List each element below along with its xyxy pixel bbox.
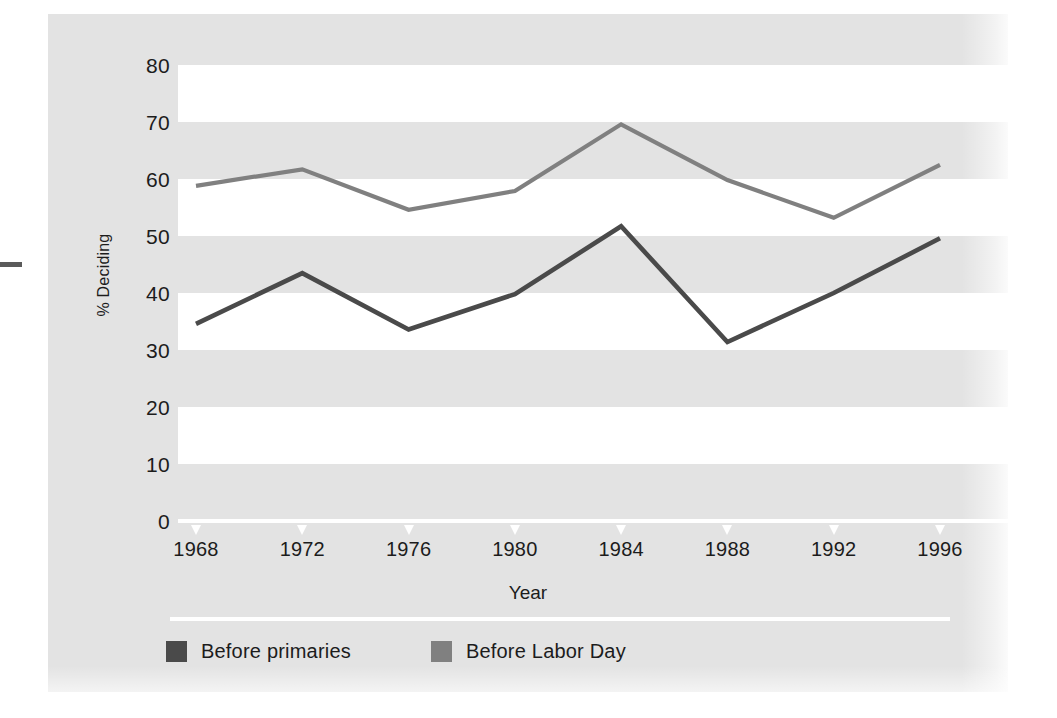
- x-tick-marker-1968: [191, 525, 201, 535]
- line-before-labor-day: [196, 124, 940, 218]
- y-tick-80: 80: [114, 55, 170, 76]
- series-lines: [178, 65, 1008, 521]
- y-tick-70: 70: [114, 112, 170, 133]
- x-tick-label-1976: 1976: [364, 538, 454, 561]
- x-tick-label-1980: 1980: [470, 538, 560, 561]
- x-tick-marker-1988: [722, 525, 732, 535]
- x-tick-marker-1980: [510, 525, 520, 535]
- y-tick-50: 50: [114, 226, 170, 247]
- scan-shade-bottom: [48, 666, 1008, 692]
- legend-label-before-primaries: Before primaries: [201, 640, 351, 663]
- x-tick-marker-1976: [404, 525, 414, 535]
- x-tick-marker-1992: [829, 525, 839, 535]
- x-axis-line: [178, 519, 1008, 523]
- y-axis-label: % Deciding: [95, 195, 113, 355]
- legend-item-before-labor-day: Before Labor Day: [431, 640, 626, 663]
- x-tick-marker-1972: [297, 525, 307, 535]
- x-tick-label-1996: 1996: [895, 538, 985, 561]
- x-tick-label-1988: 1988: [682, 538, 772, 561]
- y-tick-40: 40: [114, 283, 170, 304]
- x-tick-marker-1996: [935, 525, 945, 535]
- legend-swatch-icon-before-primaries: [166, 641, 187, 662]
- page-margin-mark: [0, 262, 22, 267]
- y-tick-0: 0: [114, 511, 170, 532]
- chart-figure-panel: 80 70 60 50 40 30 20 10 0 % Deciding 196…: [48, 14, 1008, 692]
- y-tick-20: 20: [114, 397, 170, 418]
- legend-swatch-icon-before-labor-day: [431, 641, 452, 662]
- chart-legend: Before primaries Before Labor Day: [166, 640, 626, 663]
- y-tick-10: 10: [114, 454, 170, 475]
- x-tick-marker-1984: [616, 525, 626, 535]
- legend-divider: [170, 617, 950, 621]
- y-tick-30: 30: [114, 340, 170, 361]
- x-tick-label-1992: 1992: [789, 538, 879, 561]
- x-axis-label: Year: [48, 582, 1008, 604]
- legend-label-before-labor-day: Before Labor Day: [466, 640, 626, 663]
- scanned-page: 80 70 60 50 40 30 20 10 0 % Deciding 196…: [0, 0, 1057, 718]
- x-tick-label-1968: 1968: [151, 538, 241, 561]
- line-before-primaries: [196, 226, 940, 342]
- legend-item-before-primaries: Before primaries: [166, 640, 351, 663]
- plot-area: [178, 65, 1008, 521]
- y-tick-60: 60: [114, 169, 170, 190]
- x-tick-label-1972: 1972: [257, 538, 347, 561]
- x-tick-label-1984: 1984: [576, 538, 666, 561]
